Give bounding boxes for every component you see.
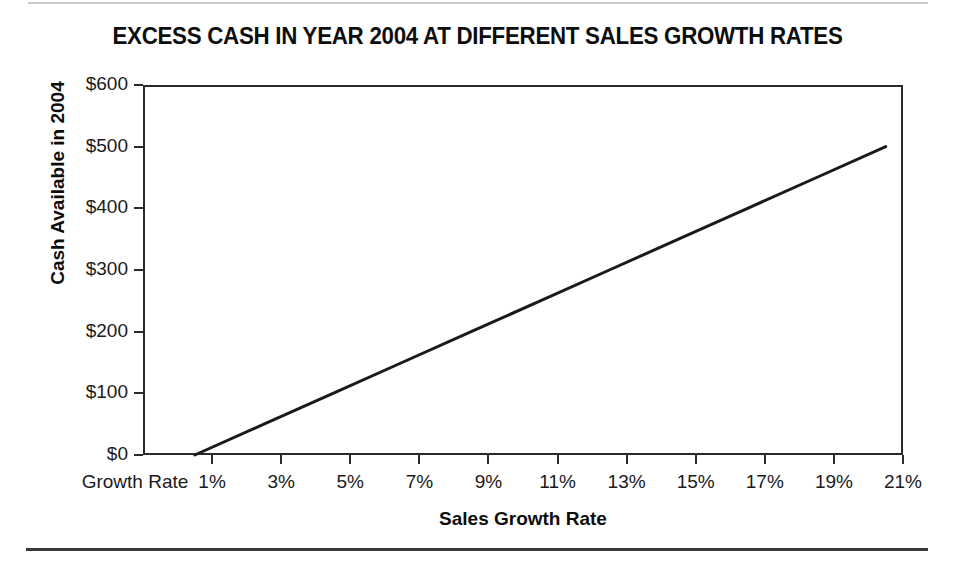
x-axis-tick-mark: [833, 455, 835, 464]
y-axis-tick-label: $100: [42, 381, 128, 403]
x-axis-tick-mark: [211, 455, 213, 464]
y-axis-tick-mark: [134, 269, 143, 271]
y-axis-tick-label: $600: [42, 73, 128, 95]
x-axis-tick-mark: [902, 455, 904, 464]
y-axis-tick-label: $0: [42, 443, 128, 465]
y-axis-tick-label: $400: [42, 196, 128, 218]
x-axis-tick-mark: [764, 455, 766, 464]
x-axis-title: Sales Growth Rate: [143, 508, 903, 530]
y-axis-tick-label: $500: [42, 135, 128, 157]
data-line-svg: [143, 85, 903, 455]
x-axis-tick-mark: [557, 455, 559, 464]
x-axis-tick-label: 15%: [677, 471, 715, 493]
x-axis-tick-mark: [626, 455, 628, 464]
y-axis-tick-mark: [134, 331, 143, 333]
y-axis-tick-mark: [134, 146, 143, 148]
y-axis-tick-label: $300: [42, 258, 128, 280]
x-axis-tick-label: 11%: [539, 471, 576, 493]
y-axis-tick-mark: [134, 392, 143, 394]
page-rule-bottom: [26, 548, 928, 551]
x-axis-tick-mark: [418, 455, 420, 464]
x-axis-tick-mark: [487, 455, 489, 464]
x-axis-tick-label: 3%: [267, 471, 294, 493]
x-axis-tick-mark: [349, 455, 351, 464]
x-axis-tick-label: 5%: [337, 471, 364, 493]
y-axis-tick-mark: [134, 207, 143, 209]
y-axis-tick-label: $200: [42, 320, 128, 342]
x-axis-tick-label: 21%: [884, 471, 922, 493]
x-axis-tick-label: 1%: [198, 471, 225, 493]
x-axis-tick-label: 19%: [815, 471, 853, 493]
x-axis-tick-label: 13%: [608, 471, 646, 493]
y-axis-tick-mark: [134, 84, 143, 86]
x-axis-tick-label: 7%: [406, 471, 433, 493]
x-axis-tick-label: 9%: [475, 471, 502, 493]
chart-area: Cash Available in 2004 $0$100$200$300$40…: [0, 0, 955, 576]
y-axis-tick-mark: [134, 454, 143, 456]
x-axis-tick-mark: [695, 455, 697, 464]
x-axis-tick-label: 17%: [746, 471, 784, 493]
data-series-line: [195, 147, 886, 455]
x-axis-tick-mark: [280, 455, 282, 464]
x-axis-origin-label: Growth Rate: [82, 471, 189, 493]
